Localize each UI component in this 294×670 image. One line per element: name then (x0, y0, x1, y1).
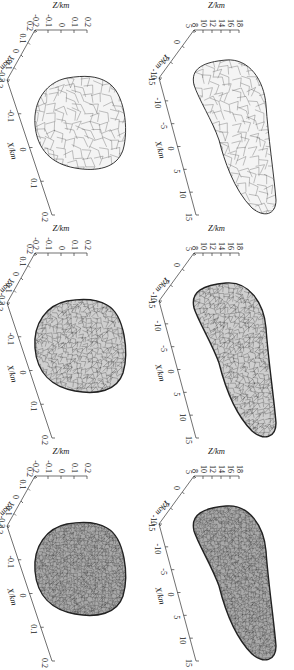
x-tick-label: -0.1 (6, 555, 15, 568)
x-tick-label: 0 (166, 593, 175, 597)
x-axis-label: X/km (5, 363, 19, 383)
z-axis-label: Z/km (208, 446, 225, 456)
x-tick-label: 0.1 (29, 401, 38, 411)
panel-spheroid-coarse: 0.20.10-0.1-0.2Z/km0.20.10-0.1-0.2Y/km-0… (0, 0, 147, 223)
x-tick-label: 0 (18, 594, 27, 598)
y-tick-label: 0 (172, 486, 181, 490)
z-tick-label: 18 (235, 242, 244, 250)
z-tick-label: 12 (208, 465, 217, 473)
x-tick-label: -0.1 (6, 109, 15, 122)
x-tick-label: -0.2 (0, 522, 4, 535)
y-tick-label: 0.1 (18, 257, 27, 267)
x-tick-label: 10 (178, 413, 187, 421)
z-axis-label: Z/km (53, 223, 70, 233)
x-tick-label: -15 (147, 521, 156, 532)
z-axis-label: Z/km (208, 0, 225, 10)
x-tick-label: 0.2 (40, 212, 49, 222)
elongated-mesh-surface (147, 223, 294, 446)
z-tick-label: 14 (217, 465, 226, 473)
x-tick-label: 0 (166, 147, 175, 151)
panel-elongated-coarse: 18161412108Z/km50-5-10Y/km-15-10-5051015… (147, 0, 294, 223)
elongated-mesh-surface (147, 446, 294, 669)
x-tick-label: -10 (153, 320, 162, 331)
x-tick-label: 5 (172, 169, 181, 173)
y-tick-label: 0.1 (18, 34, 27, 44)
panel-elongated-fine: 18161412108Z/km50-5-10Y/km-15-10-5051015… (147, 446, 294, 669)
x-tick-label: 15 (184, 659, 193, 667)
x-axis-label: X/km (153, 585, 167, 605)
x-tick-label: -15 (147, 75, 156, 86)
x-tick-label: -0.2 (0, 299, 4, 312)
x-tick-label: -0.2 (0, 76, 4, 89)
z-tick-label: 0 (57, 23, 66, 27)
y-tick-label: 0 (11, 272, 20, 276)
z-tick-label: 0.2 (83, 463, 92, 473)
x-tick-label: 0 (18, 148, 27, 152)
z-tick-label: 0.1 (70, 463, 79, 473)
y-axis-label: Y/km (0, 276, 17, 295)
z-tick-label: 16 (226, 242, 235, 250)
x-tick-label: 0 (166, 370, 175, 374)
z-tick-label: 10 (199, 19, 208, 27)
y-tick-label: 0 (172, 40, 181, 44)
x-tick-label: 0.2 (40, 658, 49, 668)
panel-spheroid-medium: 0.20.10-0.1-0.2Z/km0.20.10-0.1-0.2Y/km-0… (0, 223, 147, 446)
x-tick-label: 15 (184, 213, 193, 221)
x-tick-label: 15 (184, 436, 193, 444)
z-tick-label: 12 (208, 19, 217, 27)
x-tick-label: -15 (147, 298, 156, 309)
x-axis-label: X/km (153, 139, 167, 159)
z-tick-label: 14 (217, 242, 226, 250)
z-tick-label: 14 (217, 19, 226, 27)
y-axis-label: Y/km (0, 53, 17, 72)
z-axis-label: Z/km (208, 223, 225, 233)
z-tick-label: 0.2 (83, 240, 92, 250)
z-tick-label: 12 (208, 242, 217, 250)
panel-spheroid-fine: 0.20.10-0.1-0.2Z/km0.20.10-0.1-0.2Y/km-0… (0, 446, 147, 669)
y-tick-label: 0.1 (18, 480, 27, 490)
x-tick-label: 0 (18, 371, 27, 375)
z-tick-label: -0.1 (44, 237, 53, 250)
y-axis-label: Y/km (0, 499, 17, 518)
z-tick-label: 0.2 (83, 17, 92, 27)
y-tick-label: 5 (184, 247, 193, 251)
z-tick-label: -0.1 (44, 460, 53, 473)
y-tick-label: 0 (11, 495, 20, 499)
z-axis-label: Z/km (53, 446, 70, 456)
y-tick-label: 0.2 (25, 21, 34, 31)
x-tick-label: 0.1 (29, 178, 38, 188)
x-tick-label: -5 (159, 122, 168, 129)
y-tick-label: 0.2 (25, 467, 34, 477)
x-tick-label: 10 (178, 190, 187, 198)
panel-elongated-medium: 18161412108Z/km50-5-10Y/km-15-10-5051015… (147, 223, 294, 446)
x-tick-label: -0.1 (6, 332, 15, 345)
x-axis-label: X/km (153, 362, 167, 382)
y-tick-label: 0 (172, 263, 181, 267)
x-tick-label: -5 (159, 345, 168, 352)
x-tick-label: 5 (172, 392, 181, 396)
z-tick-label: 16 (226, 465, 235, 473)
y-tick-label: 5 (184, 24, 193, 28)
x-tick-label: 5 (172, 615, 181, 619)
z-tick-label: 10 (199, 242, 208, 250)
z-tick-label: 0.1 (70, 17, 79, 27)
z-tick-label: 0 (57, 246, 66, 250)
x-axis-label: X/km (5, 586, 19, 606)
elongated-mesh-surface (147, 0, 294, 223)
z-tick-label: 0 (57, 469, 66, 473)
x-tick-label: 0.2 (40, 435, 49, 445)
z-tick-label: 0.1 (70, 240, 79, 250)
y-tick-label: 0.2 (25, 244, 34, 254)
z-tick-label: 10 (199, 465, 208, 473)
x-tick-label: -10 (153, 97, 162, 108)
y-tick-label: 5 (184, 470, 193, 474)
z-tick-label: 18 (235, 19, 244, 27)
x-tick-label: -10 (153, 543, 162, 554)
x-tick-label: 0.1 (29, 624, 38, 634)
y-tick-label: 0 (11, 49, 20, 53)
x-axis-label: X/km (5, 140, 19, 160)
z-tick-label: 18 (235, 465, 244, 473)
z-tick-label: 16 (226, 19, 235, 27)
x-tick-label: 10 (178, 636, 187, 644)
figure: 18161412108Z/km50-5-10Y/km-15-10-5051015… (0, 0, 294, 670)
